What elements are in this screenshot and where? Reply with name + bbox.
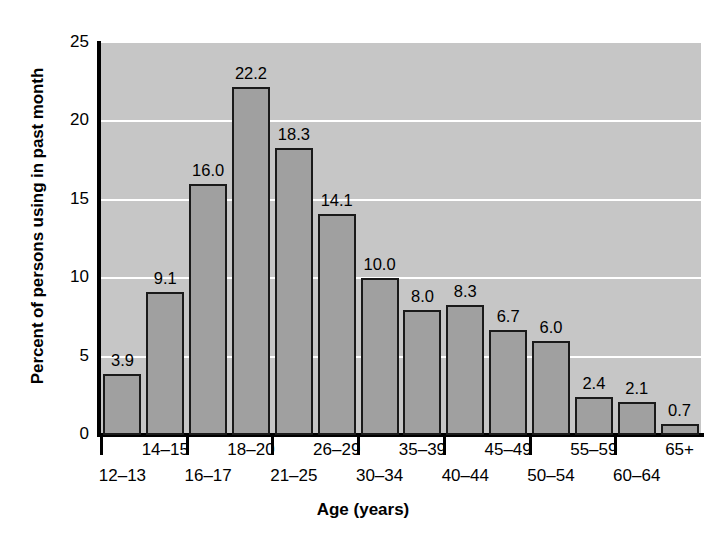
bar-14–15[interactable] bbox=[146, 292, 184, 435]
x-tick-label-60–64: 60–64 bbox=[592, 466, 682, 486]
x-tick-label-14–15: 14–15 bbox=[120, 440, 210, 460]
x-tick-label-40–44: 40–44 bbox=[420, 466, 510, 486]
gridline-20 bbox=[101, 120, 701, 122]
bar-45–49[interactable] bbox=[489, 330, 527, 435]
y-tick-label-5: 5 bbox=[49, 346, 89, 366]
bar-value-label-65+: 0.7 bbox=[650, 401, 710, 420]
bar-55–59[interactable] bbox=[575, 397, 613, 435]
bar-65+[interactable] bbox=[661, 424, 699, 435]
x-tick-label-18–20: 18–20 bbox=[206, 440, 296, 460]
bar-value-label-26–29: 14.1 bbox=[307, 191, 367, 210]
bar-value-label-16–17: 16.0 bbox=[178, 161, 238, 180]
bar-value-label-12–13: 3.9 bbox=[92, 351, 152, 370]
y-tick-label-25: 25 bbox=[49, 32, 89, 52]
y-tick-label-20: 20 bbox=[49, 110, 89, 130]
y-tick-label-15: 15 bbox=[49, 189, 89, 209]
x-tick-label-30–34: 30–34 bbox=[335, 466, 425, 486]
bar-value-label-18–20: 22.2 bbox=[221, 64, 281, 83]
x-tick-label-16–17: 16–17 bbox=[163, 466, 253, 486]
bar-value-label-14–15: 9.1 bbox=[135, 269, 195, 288]
y-tick-label-0: 0 bbox=[49, 424, 89, 444]
bar-35–39[interactable] bbox=[403, 310, 441, 435]
bar-value-label-50–54: 6.0 bbox=[521, 318, 581, 337]
bar-26–29[interactable] bbox=[318, 214, 356, 435]
x-tick-label-45–49: 45–49 bbox=[463, 440, 553, 460]
x-tick-label-35–39: 35–39 bbox=[377, 440, 467, 460]
y-tick-label-10: 10 bbox=[49, 267, 89, 287]
bar-value-label-30–34: 10.0 bbox=[350, 255, 410, 274]
bar-12–13[interactable] bbox=[103, 374, 141, 435]
bar-chart-figure: Percent of persons using in past month 0… bbox=[0, 0, 726, 558]
x-tick-label-50–54: 50–54 bbox=[506, 466, 596, 486]
x-axis-title: Age (years) bbox=[0, 500, 726, 520]
bar-16–17[interactable] bbox=[189, 184, 227, 435]
y-axis-line bbox=[97, 41, 101, 437]
x-tick-label-26–29: 26–29 bbox=[292, 440, 382, 460]
x-tick-label-55–59: 55–59 bbox=[549, 440, 639, 460]
bar-value-label-21–25: 18.3 bbox=[264, 125, 324, 144]
bar-value-label-60–64: 2.1 bbox=[607, 379, 667, 398]
y-axis-title: Percent of persons using in past month bbox=[28, 16, 48, 436]
bar-value-label-40–44: 8.3 bbox=[435, 282, 495, 301]
x-tick-0 bbox=[100, 437, 103, 455]
x-tick-label-21–25: 21–25 bbox=[249, 466, 339, 486]
x-tick-label-12–13: 12–13 bbox=[77, 466, 167, 486]
x-tick-label-65+: 65+ bbox=[635, 440, 725, 460]
